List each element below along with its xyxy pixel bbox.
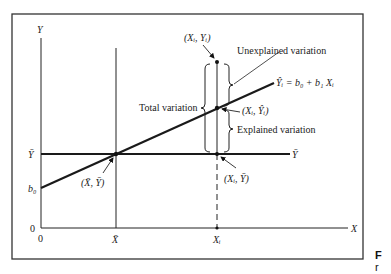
x-axis-label: X — [350, 223, 358, 234]
y-bar-tick: Ȳ — [28, 149, 35, 160]
b0-tick: b₀ — [28, 183, 37, 194]
regression-variation-diagram: Y X 0 0 Ȳ b₀ X̄ Xᵢ (Xᵢ, Yᵢ) (Xᵢ, Ŷᵢ) (X̄… — [0, 0, 391, 274]
observed-point — [215, 60, 219, 64]
mean-line-label: Ȳ — [292, 149, 299, 160]
xi-axis-point — [215, 226, 218, 229]
explained-brace — [224, 110, 233, 152]
xi-tick: Xᵢ — [212, 234, 221, 245]
predicted-point-label: (Xᵢ, Ŷᵢ) — [242, 105, 269, 117]
side-caption-2: r — [375, 261, 379, 273]
mean-point-label: (X̄, Ȳ) — [81, 177, 105, 189]
regression-equation: Ŷᵢ = b₀ + b₁ Xᵢ — [276, 77, 334, 88]
total-label: Total variation — [139, 102, 197, 113]
side-caption-1: F — [375, 249, 382, 261]
total-variation-brace — [201, 64, 210, 152]
predicted-point — [215, 106, 219, 110]
unexplained-label: Unexplained variation — [237, 45, 326, 56]
origin-x-label: 0 — [38, 233, 43, 244]
xi-ybar-arrow — [221, 157, 236, 168]
observed-point-label: (Xᵢ, Yᵢ) — [184, 32, 211, 44]
mean-point — [114, 152, 118, 156]
explained-label: Explained variation — [237, 124, 316, 135]
xi-ybar-label: (Xᵢ, Ȳ) — [224, 173, 250, 185]
origin-y-label: 0 — [30, 223, 35, 234]
y-axis-label: Y — [37, 24, 44, 35]
unexplained-leader — [234, 52, 279, 84]
observed-arrow — [203, 45, 214, 58]
unexplained-brace — [224, 64, 233, 106]
x-bar-tick: X̄ — [111, 234, 119, 245]
xi-ybar-point — [215, 152, 219, 156]
